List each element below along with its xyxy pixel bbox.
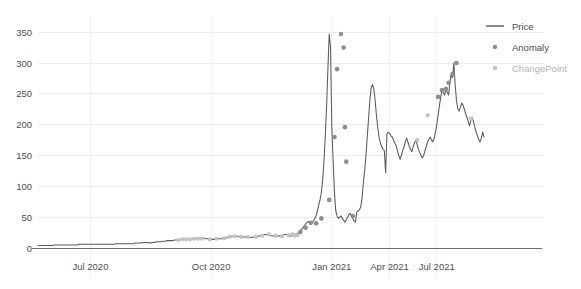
legend-item-price[interactable]: Price [486, 21, 534, 32]
anomaly-marker [319, 216, 324, 221]
y-axis-tick-labels: 050100150200250300350 [16, 27, 32, 254]
anomaly-marker [339, 32, 344, 37]
changepoint-markers [176, 113, 473, 242]
x-axis-tick-labels: Jul 2020Oct 2020Jan 2021Apr 2021Jul 2021 [73, 261, 455, 272]
changepoint-marker [415, 138, 419, 142]
legend-item-changepoint[interactable]: ChangePoint [493, 63, 567, 74]
y-tick-label: 150 [16, 150, 32, 161]
legend-label: ChangePoint [512, 63, 567, 74]
changepoint-marker [239, 235, 243, 239]
anomaly-marker [344, 159, 349, 164]
legend-item-anomaly[interactable]: Anomaly [493, 42, 549, 53]
changepoint-marker [254, 235, 258, 239]
horizontal-gridlines [38, 32, 544, 248]
anomaly-marker [440, 88, 445, 93]
x-tick-label: Oct 2020 [192, 261, 231, 272]
y-tick-label: 350 [16, 27, 32, 38]
y-tick-label: 50 [21, 212, 32, 223]
y-tick-label: 0 [27, 243, 32, 254]
changepoint-marker [200, 237, 204, 241]
anomaly-marker [341, 45, 346, 50]
y-tick-label: 100 [16, 181, 32, 192]
chart-container: 050100150200250300350 Jul 2020Oct 2020Ja… [0, 0, 581, 289]
y-tick-label: 250 [16, 88, 32, 99]
changepoint-marker [469, 116, 473, 120]
changepoint-marker [233, 234, 237, 238]
changepoint-marker [260, 234, 264, 238]
price-anomaly-chart: 050100150200250300350 Jul 2020Oct 2020Ja… [0, 0, 581, 289]
anomaly-marker [327, 198, 332, 203]
anomaly-marker [314, 221, 319, 226]
anomaly-marker [450, 72, 455, 77]
anomaly-marker [309, 220, 314, 225]
changepoint-marker [176, 238, 180, 242]
x-tick-label: Jul 2020 [73, 261, 109, 272]
y-tick-label: 300 [16, 58, 32, 69]
x-tick-label: Jan 2021 [312, 261, 351, 272]
changepoint-marker [180, 237, 184, 241]
changepoint-marker [286, 233, 290, 237]
changepoint-marker [188, 237, 192, 241]
changepoint-marker [267, 232, 271, 236]
chart-legend: PriceAnomalyChangePoint [486, 21, 567, 74]
anomaly-marker [298, 230, 303, 235]
anomaly-marker [446, 80, 451, 85]
changepoint-marker [214, 237, 218, 241]
legend-label: Price [512, 21, 534, 32]
changepoint-marker [280, 234, 284, 238]
changepoint-marker [425, 113, 429, 117]
legend-dot-swatch [493, 45, 497, 49]
anomaly-marker [454, 61, 459, 66]
legend-label: Anomaly [512, 42, 549, 53]
anomaly-marker [351, 214, 356, 219]
anomaly-marker [335, 67, 340, 72]
x-tick-label: Apr 2021 [370, 261, 409, 272]
changepoint-marker [227, 235, 231, 239]
anomaly-marker [444, 87, 449, 92]
y-tick-label: 200 [16, 119, 32, 130]
changepoint-marker [208, 237, 212, 241]
changepoint-marker [184, 237, 188, 241]
changepoint-marker [246, 235, 250, 239]
changepoint-marker [196, 237, 200, 241]
anomaly-marker [436, 95, 441, 100]
changepoint-marker [222, 236, 226, 240]
anomaly-marker [303, 225, 308, 230]
x-tick-label: Jul 2021 [419, 261, 455, 272]
legend-dot-swatch [493, 66, 497, 70]
anomaly-marker [343, 125, 348, 130]
anomaly-marker [332, 135, 337, 140]
changepoint-marker [273, 234, 277, 238]
changepoint-marker [192, 237, 196, 241]
vertical-gridlines [90, 16, 436, 278]
